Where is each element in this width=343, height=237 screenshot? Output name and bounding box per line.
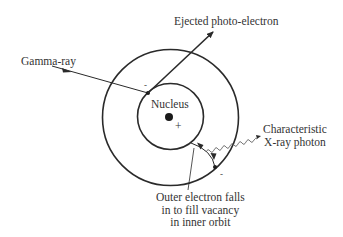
xray-label-line-2: X-ray photon — [263, 136, 327, 149]
outer-electron-falls-label: Outer electron falls in to fill vacancy … — [156, 191, 245, 229]
ejected-electron-arrow — [148, 32, 213, 93]
xray-photon-label: Characteristic X-ray photon — [263, 123, 327, 148]
nucleus-charge: + — [175, 120, 182, 132]
nucleus-dot — [165, 113, 173, 121]
falls-label-line-1: Outer electron falls — [156, 191, 245, 204]
xray-photon-wave — [206, 138, 257, 152]
outer-electron-charge: - — [220, 168, 223, 180]
gamma-ray-label: Gamma-ray — [21, 55, 76, 67]
falls-label-line-2: in to fill vacancy — [156, 204, 245, 217]
leader-line — [188, 148, 194, 190]
inner-electron-charge: - — [144, 79, 147, 91]
nucleus-label: Nucleus — [151, 98, 189, 110]
electron-fall-path — [191, 143, 215, 167]
gamma-ray-arrow-icon — [62, 68, 72, 73]
falls-label-line-3: in inner orbit — [156, 216, 245, 229]
xray-label-line-1: Characteristic — [263, 123, 327, 136]
ejected-photo-electron-label: Ejected photo-electron — [174, 15, 278, 27]
